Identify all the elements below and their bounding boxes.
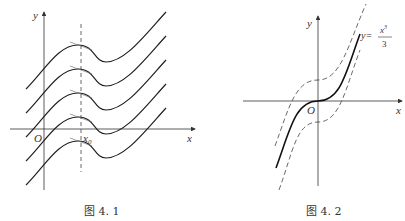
- y-axis-label: y: [32, 9, 38, 21]
- upper-dashed-curve: [275, 4, 366, 146]
- svg-text:x3: x3: [379, 24, 387, 35]
- origin-label: O: [307, 104, 315, 116]
- svg-text:3: 3: [382, 39, 387, 49]
- x0-label: x0: [82, 132, 92, 146]
- lower-dashed-curve: [279, 50, 360, 190]
- origin-label: O: [34, 132, 42, 144]
- x-axis-label: x: [395, 104, 401, 116]
- y-axis-label: y: [306, 17, 312, 29]
- figure-4-1-caption: 图 4. 1: [84, 202, 120, 218]
- figure-4-2-caption: 图 4. 2: [306, 202, 342, 218]
- figure-4-2: y x O y= x3 3: [243, 4, 402, 190]
- figure-canvas: y x O x0 y x O y= x3 3: [0, 0, 405, 221]
- integral-curves: [26, 12, 166, 185]
- curve-equation-label: y= x3 3: [360, 24, 392, 49]
- svg-text:y=: y=: [360, 30, 372, 41]
- x-axis-label: x: [186, 132, 192, 144]
- figure-4-1: y x O x0: [10, 9, 195, 190]
